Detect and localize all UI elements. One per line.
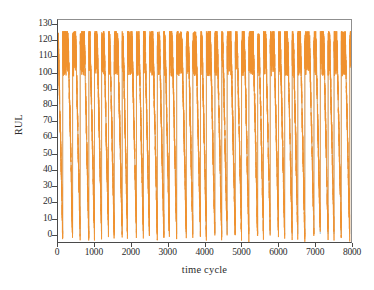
- y-tick-label: 30: [12, 181, 52, 191]
- y-tick-label: 80: [12, 100, 52, 110]
- y-tick-label: 120: [12, 35, 52, 45]
- chart-figure: RUL 0102030405060708090100110120130 0100…: [0, 0, 374, 290]
- x-tick-mark: [241, 243, 242, 247]
- x-tick-mark: [315, 243, 316, 247]
- x-tick-mark: [94, 243, 95, 247]
- x-tick-mark: [131, 243, 132, 247]
- y-tick-label: 50: [12, 149, 52, 159]
- x-tick-label: 8000: [322, 247, 374, 257]
- y-tick-label: 70: [12, 117, 52, 127]
- plot-area: [57, 19, 352, 243]
- x-axis-label: time cycle: [57, 264, 352, 275]
- x-tick-mark: [205, 243, 206, 247]
- x-tick-mark: [352, 243, 353, 247]
- y-tick-label: 130: [12, 19, 52, 29]
- x-tick-mark: [57, 243, 58, 247]
- y-tick-label: 0: [12, 230, 52, 240]
- y-tick-label: 40: [12, 165, 52, 175]
- series-canvas: [58, 20, 351, 242]
- y-tick-label: 100: [12, 68, 52, 78]
- y-tick-label: 110: [12, 52, 52, 62]
- x-tick-mark: [168, 243, 169, 247]
- series-predicted-rul: [58, 31, 351, 242]
- y-tick-label: 10: [12, 214, 52, 224]
- y-tick-label: 60: [12, 133, 52, 143]
- y-tick-label: 90: [12, 84, 52, 94]
- x-tick-mark: [278, 243, 279, 247]
- y-tick-label: 20: [12, 198, 52, 208]
